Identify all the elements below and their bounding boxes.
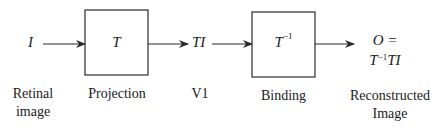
output-line2: T−1TI bbox=[355, 50, 415, 70]
output-label-line2: Image bbox=[340, 105, 440, 123]
output-line2-sup: −1 bbox=[378, 52, 388, 62]
input-symbol: I bbox=[28, 34, 33, 51]
input-label: Retinal image bbox=[5, 85, 61, 121]
projection-label: Projection bbox=[76, 85, 158, 103]
output-equation: O = T−1TI bbox=[355, 30, 415, 70]
output-line2-rest: TI bbox=[387, 52, 400, 68]
binding-symbol: T−1 bbox=[252, 34, 315, 51]
input-label-line1: Retinal bbox=[5, 85, 61, 103]
binding-symbol-sup: −1 bbox=[283, 31, 293, 41]
output-line2-base: T bbox=[369, 52, 377, 68]
binding-label: Binding bbox=[250, 87, 317, 105]
output-label: Reconstructed Image bbox=[340, 87, 440, 123]
v1-label: V1 bbox=[180, 85, 220, 103]
v1-symbol: TI bbox=[192, 34, 205, 51]
output-line1: O = bbox=[355, 30, 415, 50]
projection-symbol: T bbox=[85, 34, 148, 51]
input-label-line2: image bbox=[5, 103, 61, 121]
binding-symbol-base: T bbox=[275, 34, 283, 50]
output-label-line1: Reconstructed bbox=[340, 87, 440, 105]
